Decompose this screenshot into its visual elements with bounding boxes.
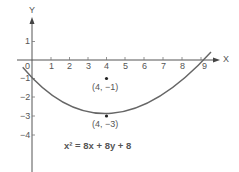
x-tick-8: 8 — [180, 62, 185, 71]
x-axis-label: X — [223, 55, 229, 64]
y-tick-neg1: −1 — [20, 74, 30, 83]
vertex-point — [105, 114, 108, 117]
x-tick-1: 1 — [49, 62, 54, 71]
x-tick-3: 3 — [86, 62, 91, 71]
y-tick-neg4: −4 — [20, 131, 30, 140]
y-tick-1: 1 — [25, 37, 30, 46]
x-tick-4: 4 — [104, 62, 109, 71]
origin-label: 0 — [25, 62, 30, 71]
x-tick-7: 7 — [161, 62, 166, 71]
y-tick-neg2: −2 — [20, 93, 30, 102]
equation-label: x² = 8x + 8y + 8 — [64, 140, 131, 151]
y-axis-arrow-icon — [30, 17, 35, 24]
y-axis-label: Y — [29, 6, 35, 15]
y-tick-neg3: −3 — [20, 112, 30, 121]
vertex-label: (4, −3) — [92, 120, 118, 129]
x-tick-2: 2 — [67, 62, 72, 71]
focus-point — [105, 77, 108, 80]
x-tick-9: 9 — [202, 62, 207, 71]
focus-label: (4, −1) — [92, 83, 118, 92]
x-tick-5: 5 — [123, 62, 128, 71]
x-tick-6: 6 — [142, 62, 147, 71]
x-axis-arrow-icon — [213, 58, 220, 63]
